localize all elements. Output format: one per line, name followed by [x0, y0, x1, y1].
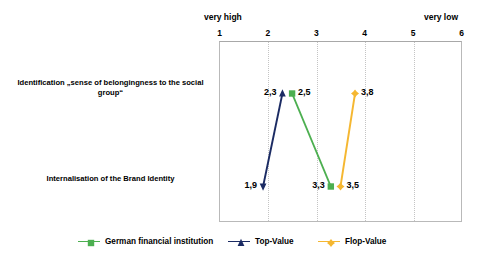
x-tick-2: 2 — [266, 28, 271, 38]
plot-area — [219, 41, 462, 222]
legend-item-flop-value[interactable]: Flop-Value — [318, 233, 386, 249]
row-label-internalisation: Internalisation of the Brand Identity — [8, 174, 213, 184]
scale-caption-very-high: very high — [204, 12, 242, 22]
point-value-label: 2,3 — [264, 87, 277, 97]
point-value-label: 3,3 — [312, 180, 325, 190]
legend-item-label: German financial institution — [105, 237, 213, 246]
legend-swatch-icon — [78, 235, 100, 247]
x-tick-4: 4 — [362, 28, 367, 38]
legend-item-label: Flop-Value — [345, 237, 386, 246]
gridline-3 — [317, 42, 318, 221]
legend-item-top-value[interactable]: Top-Value — [228, 233, 294, 249]
point-value-label: 1,9 — [245, 180, 258, 190]
gridline-2 — [268, 42, 269, 221]
point-value-label: 3,8 — [361, 87, 374, 97]
scale-caption-very-low: very low — [424, 12, 458, 22]
legend-item-german-financial-institution[interactable]: German financial institution — [78, 233, 213, 249]
point-value-label: 2,5 — [298, 87, 311, 97]
legend-swatch-icon — [318, 235, 340, 247]
legend-swatch-icon — [228, 235, 250, 247]
x-tick-3: 3 — [314, 28, 319, 38]
slope-chart-figure: very high very low 123456 Identification… — [0, 0, 490, 261]
chart-legend: German financial institutionTop-ValueFlo… — [0, 233, 490, 251]
x-tick-5: 5 — [411, 28, 416, 38]
gridline-4 — [365, 42, 366, 221]
x-tick-6: 6 — [459, 28, 464, 38]
gridline-5 — [414, 42, 415, 221]
point-value-label: 3,5 — [347, 180, 360, 190]
row-label-identification: Identification „sense of belongingness t… — [8, 78, 213, 99]
legend-item-label: Top-Value — [255, 237, 294, 246]
x-tick-1: 1 — [217, 28, 222, 38]
